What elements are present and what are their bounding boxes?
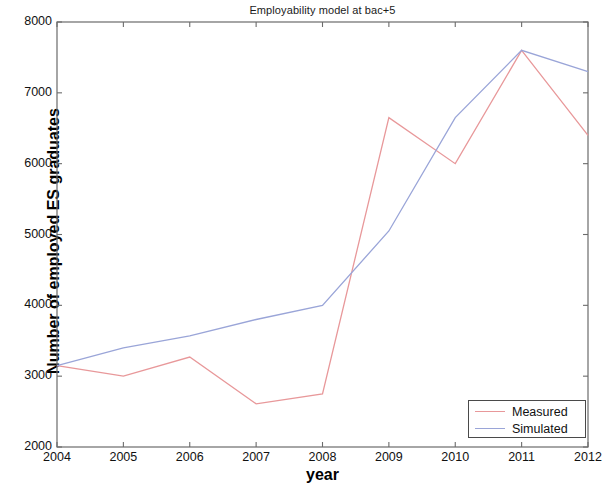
legend-item-measured: Measured xyxy=(469,403,587,420)
series-line-measured xyxy=(57,50,588,403)
x-tick-label: 2010 xyxy=(425,450,485,464)
y-tick-label: 3000 xyxy=(4,368,52,382)
legend-swatch-icon xyxy=(475,428,505,429)
legend-label: Measured xyxy=(512,405,568,419)
axes-frame xyxy=(57,22,588,447)
x-tick-label: 2004 xyxy=(27,450,87,464)
series-line-simulated xyxy=(57,50,588,365)
legend-label: Simulated xyxy=(512,422,568,436)
x-tick-label: 2009 xyxy=(359,450,419,464)
x-tick-label: 2008 xyxy=(293,450,353,464)
x-tick-label: 2012 xyxy=(558,450,606,464)
series-lines xyxy=(57,50,588,403)
x-tick-label: 2005 xyxy=(93,450,153,464)
y-tick-label: 4000 xyxy=(4,297,52,311)
legend-swatch-icon xyxy=(475,411,505,412)
x-tick-label: 2006 xyxy=(160,450,220,464)
y-tick-label: 8000 xyxy=(4,14,52,28)
legend-item-simulated: Simulated xyxy=(469,420,587,437)
y-tick-label: 6000 xyxy=(4,156,52,170)
x-tick-label: 2007 xyxy=(226,450,286,464)
y-tick-label: 7000 xyxy=(4,85,52,99)
axis-ticks xyxy=(57,22,588,447)
x-tick-label: 2011 xyxy=(492,450,552,464)
y-tick-label: 5000 xyxy=(4,227,52,241)
chart-legend: MeasuredSimulated xyxy=(468,400,586,438)
